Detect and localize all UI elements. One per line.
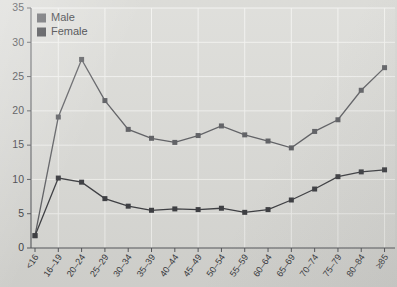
y-axis-tick-label: 20 <box>12 104 24 116</box>
x-axis-tick-label: 30–34 <box>111 252 134 278</box>
data-point-female-9 <box>242 210 247 215</box>
x-axis-tick-label: 70–74 <box>298 252 321 278</box>
y-axis-tick-label: 30 <box>12 36 24 48</box>
data-point-female-13 <box>335 174 340 179</box>
x-axis-tick-label: ≥85 <box>373 252 390 270</box>
legend-label-female: Female <box>51 25 88 37</box>
data-point-male-7 <box>196 133 201 138</box>
data-point-male-5 <box>149 136 154 141</box>
y-axis-tick-label: 25 <box>12 70 24 82</box>
data-point-male-13 <box>335 117 340 122</box>
data-point-male-9 <box>242 132 247 137</box>
legend-swatch-female <box>37 28 46 37</box>
data-point-female-8 <box>219 206 224 211</box>
y-axis-tick-label: 35 <box>12 1 24 13</box>
data-point-male-3 <box>102 98 107 103</box>
y-axis-tick-label: 15 <box>12 138 24 150</box>
data-point-female-3 <box>102 196 107 201</box>
data-point-female-12 <box>312 187 317 192</box>
data-point-female-5 <box>149 208 154 213</box>
y-axis-tick-label: 5 <box>18 207 24 219</box>
y-axis-tick-label: 0 <box>18 241 24 253</box>
x-axis-tick-label: 65–69 <box>274 252 297 278</box>
x-axis-tick-label: <16 <box>24 252 41 270</box>
data-point-female-11 <box>289 198 294 203</box>
data-point-male-15 <box>382 65 387 70</box>
x-axis-tick-label: 20–24 <box>65 252 88 278</box>
data-point-male-1 <box>56 115 61 120</box>
line-chart: 05101520253035<1616–1920–2425–2930–3435–… <box>0 0 397 287</box>
x-axis-tick-label: 75–79 <box>321 252 344 278</box>
x-axis-tick-label: 16–19 <box>41 252 64 278</box>
x-axis-tick-label: 40–44 <box>158 252 181 278</box>
data-point-female-10 <box>266 207 271 212</box>
x-axis-tick-label: 25–29 <box>88 252 111 278</box>
data-point-female-15 <box>382 167 387 172</box>
data-point-male-14 <box>359 88 364 93</box>
data-point-male-10 <box>266 139 271 144</box>
x-axis-tick-label: 35–39 <box>135 252 158 278</box>
legend-swatch-male <box>37 14 46 23</box>
data-point-female-4 <box>126 204 131 209</box>
data-point-male-4 <box>126 127 131 132</box>
legend-label-male: Male <box>51 11 75 23</box>
data-point-male-6 <box>172 140 177 145</box>
data-point-female-7 <box>196 207 201 212</box>
data-point-female-14 <box>359 169 364 174</box>
data-point-female-2 <box>79 180 84 185</box>
data-point-male-11 <box>289 145 294 150</box>
chart-canvas: 05101520253035<1616–1920–2425–2930–3435–… <box>0 0 397 287</box>
data-point-female-0 <box>33 233 38 238</box>
data-point-male-2 <box>79 57 84 62</box>
data-point-female-6 <box>172 206 177 211</box>
y-axis-tick-label: 10 <box>12 173 24 185</box>
x-axis-tick-label: 60–64 <box>251 252 274 278</box>
x-axis-tick-label: 50–54 <box>205 252 228 278</box>
x-axis-tick-label: 80–84 <box>344 252 367 278</box>
x-axis-tick-label: 45–49 <box>181 252 204 278</box>
data-point-male-8 <box>219 123 224 128</box>
data-point-male-12 <box>312 129 317 134</box>
x-axis-tick-label: 55–59 <box>228 252 251 278</box>
data-point-female-1 <box>56 176 61 181</box>
plot-background <box>31 8 395 248</box>
